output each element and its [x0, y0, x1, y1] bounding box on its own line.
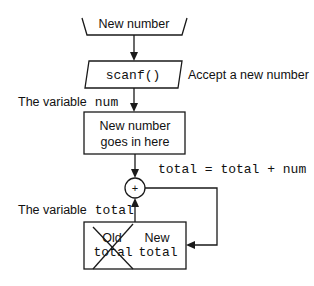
adder-node: + [125, 178, 145, 198]
total-variable-caption: The variable total [18, 200, 134, 218]
new-total-line2: total [138, 245, 177, 260]
num-caption-var: num [95, 95, 119, 110]
scanf-label: scanf() [106, 68, 161, 83]
num-caption-prefix: The variable [18, 95, 87, 109]
arrow-scanf-to-num [130, 88, 138, 112]
input-shape: New number [82, 17, 187, 35]
num-box-line1: New number [100, 119, 171, 133]
arrowhead-icon [131, 169, 139, 178]
num-box-line2: goes in here [101, 135, 170, 149]
arrow-input-to-scanf [130, 35, 138, 61]
scanf-annotation: Accept a new number [188, 68, 309, 82]
plus-icon: + [132, 182, 138, 194]
old-total-line1: Old [102, 231, 122, 245]
arrowhead-icon [186, 241, 195, 249]
total-box: Old total New total [84, 222, 186, 269]
arrowhead-icon [130, 52, 138, 61]
total-caption-var: total [95, 203, 134, 218]
num-box: New number goes in here [84, 112, 185, 154]
scanf-shape: scanf() [85, 61, 182, 88]
new-total-line1: New [144, 231, 170, 245]
arrowhead-icon [130, 103, 138, 112]
arrow-num-to-adder [131, 154, 139, 178]
adder-formula: total = total + num [158, 162, 306, 177]
num-variable-caption: The variable num [18, 92, 118, 110]
flowchart: New number scanf() Accept a new number T… [0, 0, 314, 286]
total-caption-prefix: The variable [18, 203, 87, 217]
input-label: New number [99, 17, 170, 31]
